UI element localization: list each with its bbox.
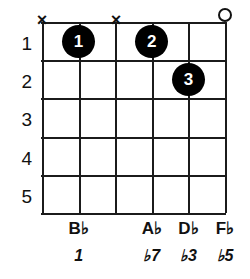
fret-number-1: 1 bbox=[6, 34, 32, 53]
muted-marker-string-3: × bbox=[107, 11, 125, 29]
fret-number-5: 5 bbox=[6, 187, 32, 206]
chord-diagram: 1 2 3 4 5 × × 1 2 3 B♭ A♭ D♭ F♭ 1 ♭7 ♭3 … bbox=[0, 0, 250, 279]
open-marker-string-6 bbox=[218, 8, 232, 22]
string-line-5 bbox=[188, 22, 190, 213]
finger-dot-3: 3 bbox=[172, 63, 205, 96]
muted-marker-string-1: × bbox=[33, 11, 51, 29]
string-line-3 bbox=[115, 22, 117, 213]
interval-label-string-2: 1 bbox=[54, 248, 104, 264]
fret-line-4 bbox=[41, 175, 226, 177]
fret-line-5 bbox=[41, 213, 226, 215]
string-line-1 bbox=[42, 22, 44, 213]
interval-label-string-6: ♭5 bbox=[200, 248, 250, 264]
nut-line bbox=[41, 22, 226, 24]
finger-dot-1: 1 bbox=[62, 25, 95, 58]
string-line-6 bbox=[225, 22, 227, 213]
fret-line-1 bbox=[41, 60, 226, 62]
fret-line-2 bbox=[41, 98, 226, 100]
note-label-string-2: B♭ bbox=[54, 220, 104, 237]
fret-number-3: 3 bbox=[6, 110, 32, 129]
note-label-string-6: F♭ bbox=[200, 220, 250, 237]
fret-number-2: 2 bbox=[6, 72, 32, 91]
fret-number-4: 4 bbox=[6, 149, 32, 168]
fret-line-3 bbox=[41, 137, 226, 139]
finger-dot-2: 2 bbox=[135, 25, 168, 58]
